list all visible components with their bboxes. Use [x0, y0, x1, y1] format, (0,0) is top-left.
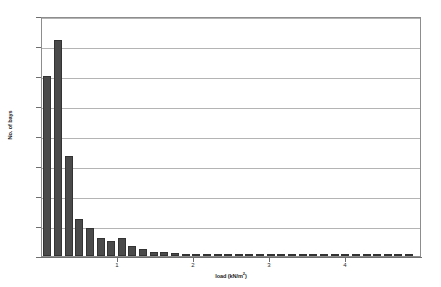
- bar: [192, 254, 200, 256]
- bar: [288, 254, 296, 256]
- x-axis-tick-label: 2: [183, 262, 203, 268]
- y-axis-title: No. of bays: [7, 99, 13, 151]
- bar: [43, 76, 51, 256]
- bar: [373, 254, 381, 256]
- y-axis-tick: [36, 47, 41, 48]
- bar: [405, 254, 413, 256]
- bar: [256, 254, 264, 256]
- bar: [107, 241, 115, 256]
- y-axis-tick: [36, 137, 41, 138]
- y-axis-tick: [36, 167, 41, 168]
- bar: [299, 254, 307, 256]
- bar: [224, 254, 232, 256]
- bar: [86, 228, 94, 257]
- y-axis-tick: [36, 77, 41, 78]
- y-axis-tick: [36, 17, 41, 18]
- bar: [341, 254, 349, 256]
- bar: [128, 246, 136, 256]
- bar: [214, 254, 222, 256]
- bar: [150, 252, 158, 257]
- bar: [97, 238, 105, 256]
- x-axis-tick-label: 4: [335, 262, 355, 268]
- bar-series: [42, 18, 420, 256]
- bar: [171, 253, 179, 256]
- x-axis-title: load (kN/m2): [171, 271, 291, 279]
- bar: [394, 254, 402, 256]
- y-axis-tick: [36, 107, 41, 108]
- bar: [182, 254, 190, 256]
- y-axis-tick: [36, 197, 41, 198]
- x-axis-line: [41, 257, 422, 258]
- bar: [309, 254, 317, 256]
- bar: [235, 254, 243, 256]
- bar: [245, 254, 253, 256]
- bar: [277, 254, 285, 256]
- bar: [363, 254, 371, 256]
- x-axis-tick-label: 3: [259, 262, 279, 268]
- bar: [75, 219, 83, 257]
- bar: [54, 40, 62, 256]
- bar: [118, 238, 126, 256]
- plot-area: [41, 17, 421, 257]
- bar: [160, 252, 168, 257]
- bar: [331, 254, 339, 256]
- x-axis-tick-label: 1: [107, 262, 127, 268]
- bar: [267, 254, 275, 256]
- histogram-chart: No. of bays 0200400600800100012001400160…: [0, 0, 441, 287]
- bar: [384, 254, 392, 256]
- bar: [139, 249, 147, 256]
- bar: [203, 254, 211, 256]
- bar: [320, 254, 328, 256]
- bar: [65, 156, 73, 257]
- bar: [352, 254, 360, 256]
- y-axis-tick: [36, 227, 41, 228]
